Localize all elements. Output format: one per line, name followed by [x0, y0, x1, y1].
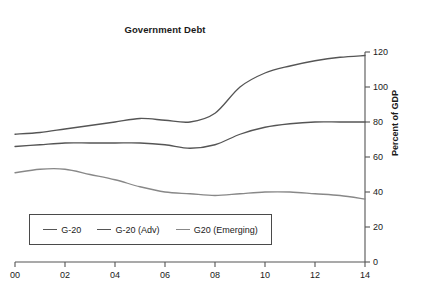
y-tick-label: 40 — [373, 187, 383, 197]
x-tick-label: 04 — [110, 270, 120, 280]
x-axis-ticks: 0002040608101214 — [10, 262, 370, 280]
y-tick-label: 60 — [373, 152, 383, 162]
x-tick-label: 06 — [160, 270, 170, 280]
legend-item-g20: G-20 — [43, 225, 81, 235]
series-line — [15, 169, 365, 199]
legend-label: G-20 — [61, 225, 81, 235]
x-tick-label: 00 — [10, 270, 20, 280]
x-tick-label: 02 — [60, 270, 70, 280]
x-tick-label: 08 — [210, 270, 220, 280]
x-tick-label: 12 — [310, 270, 320, 280]
legend-line-icon — [43, 229, 57, 230]
plot-area: 020406080100120 0002040608101214 — [0, 0, 425, 292]
y-tick-label: 20 — [373, 222, 383, 232]
data-series-group — [15, 56, 365, 200]
legend-label: G-20 (Adv) — [115, 225, 159, 235]
chart-legend: G-20 G-20 (Adv) G20 (Emerging) — [29, 214, 272, 245]
legend-label: G20 (Emerging) — [194, 225, 258, 235]
x-tick-label: 14 — [360, 270, 370, 280]
legend-line-icon — [97, 229, 111, 230]
series-line — [15, 122, 365, 148]
y-tick-label: 0 — [373, 257, 378, 267]
y-tick-label: 120 — [373, 47, 388, 57]
y-tick-label: 80 — [373, 117, 383, 127]
legend-item-g20-adv: G-20 (Adv) — [97, 225, 159, 235]
y-axis-label: Percent of GDP — [390, 73, 400, 173]
y-tick-label: 100 — [373, 82, 388, 92]
legend-line-icon — [176, 229, 190, 230]
x-tick-label: 10 — [260, 270, 270, 280]
legend-item-g20-emerging: G20 (Emerging) — [176, 225, 258, 235]
y-axis-ticks: 020406080100120 — [365, 47, 388, 267]
chart-figure: Government Debt 020406080100120 00020406… — [0, 0, 425, 292]
